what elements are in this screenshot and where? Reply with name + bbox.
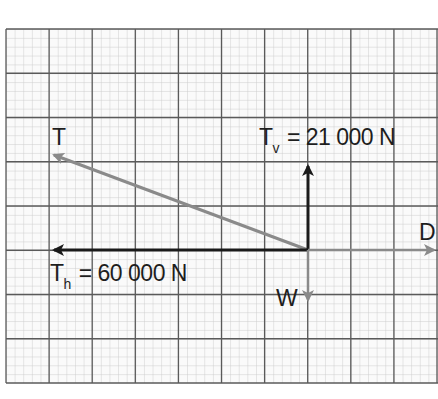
label-Tv-main: T [259, 124, 273, 150]
label-Th-subscript: h [64, 276, 71, 292]
label-Tv-subscript: v [273, 140, 280, 156]
label-Th: Th = 60 000 N [50, 262, 187, 285]
force-diagram [0, 0, 438, 399]
label-Tv-value: = 21 000 N [287, 124, 395, 150]
label-D: D [419, 221, 435, 244]
label-Tv: Tv = 21 000 N [259, 126, 395, 149]
label-T: T [52, 126, 66, 149]
label-Th-value: = 60 000 N [79, 260, 187, 286]
label-Th-main: T [50, 260, 64, 286]
label-W: W [276, 287, 297, 310]
